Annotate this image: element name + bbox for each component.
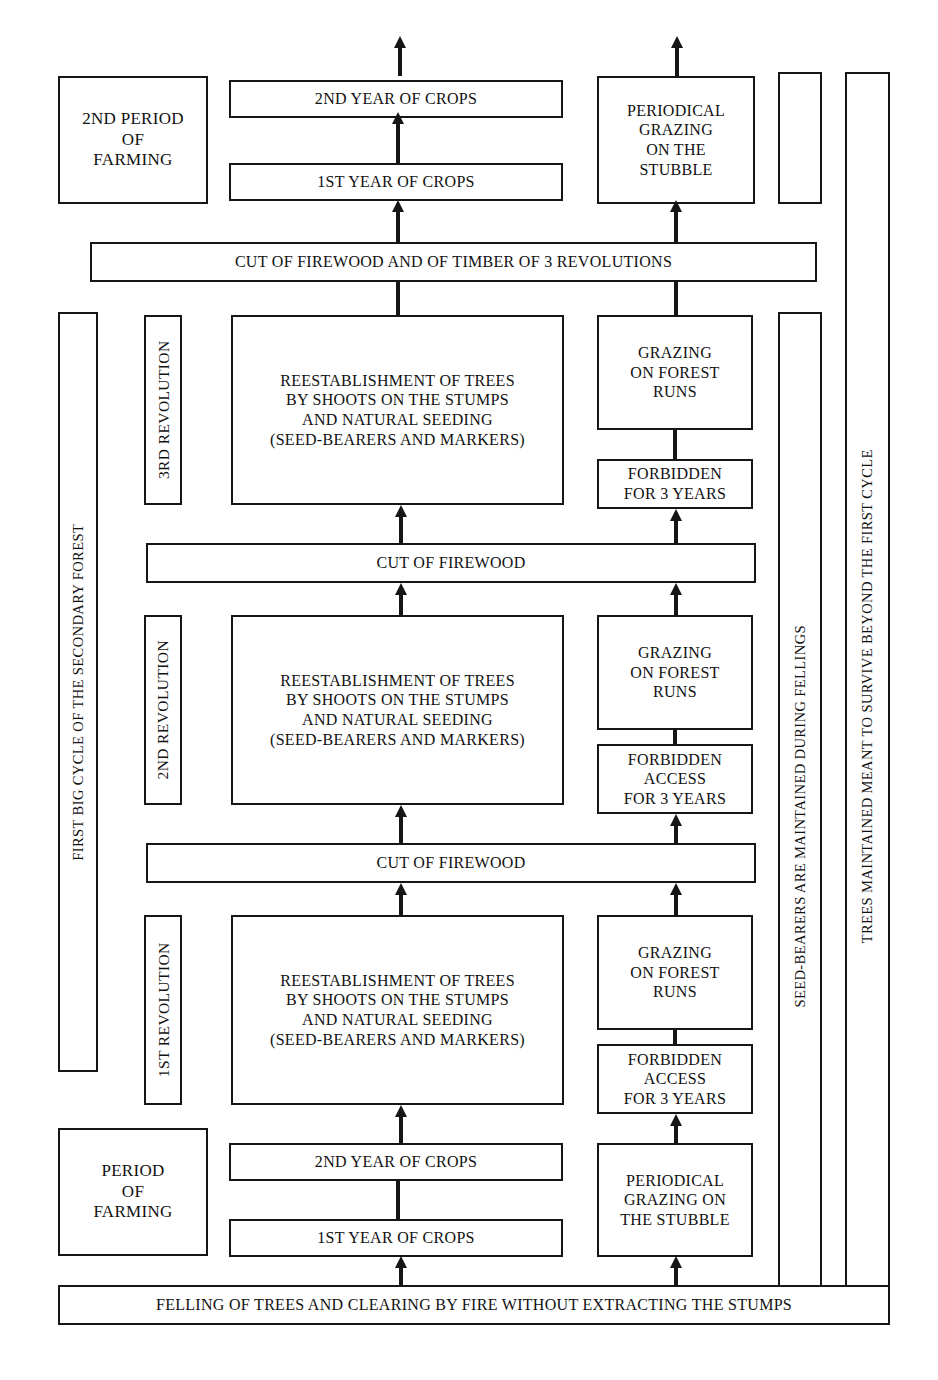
reestablishment-box-3rd: REESTABLISHMENT OF TREES BY SHOOTS ON TH… <box>231 315 564 505</box>
arrow-head-up <box>395 1256 407 1268</box>
revolution-label-text: 3RD REVOLUTION <box>155 341 171 480</box>
connector-line <box>396 282 400 315</box>
connector-line <box>673 430 677 459</box>
periodical-grazing-top-box: PERIODICAL GRAZING ON THE STUBBLE <box>597 76 755 204</box>
arrow-head-up <box>670 509 682 521</box>
second-period-of-farming-box: 2ND PERIOD OF FARMING <box>58 76 208 204</box>
arrow-head-up <box>392 200 404 212</box>
grazing-forest-runs-box-1st: GRAZING ON FOREST RUNS <box>597 915 753 1030</box>
crops-1st-year-bottom-box: 1ST YEAR OF CROPS <box>229 1219 563 1257</box>
arrow-head-up <box>395 1105 407 1117</box>
arrow-head-up <box>395 583 407 595</box>
connector-line <box>398 46 402 76</box>
arrow-head-up <box>670 883 682 895</box>
revolution-label-1st: 1ST REVOLUTION <box>144 915 182 1105</box>
arrow-head-up <box>670 583 682 595</box>
connector-line <box>673 730 677 744</box>
trees-maintained-column: TREES MAINTAINED MEANT TO SURVIVE BEYOND… <box>845 72 890 1320</box>
period-of-farming-box: PERIOD OF FARMING <box>58 1128 208 1256</box>
arrow-head-up <box>670 200 682 212</box>
connector-line <box>396 1181 400 1219</box>
arrow-head-up <box>670 1114 682 1126</box>
forbidden-box-3rd: FORBIDDEN FOR 3 YEARS <box>597 459 753 509</box>
connector-line <box>675 46 679 76</box>
forbidden-box-1st: FORBIDDEN ACCESS FOR 3 YEARS <box>597 1044 753 1114</box>
revolution-label-3rd: 3RD REVOLUTION <box>144 315 182 505</box>
reestablishment-box-1st: REESTABLISHMENT OF TREES BY SHOOTS ON TH… <box>231 915 564 1105</box>
cut-firewood-banner-lower: CUT OF FIREWOOD <box>146 843 756 883</box>
seed-bearers-label: SEED-BEARERS ARE MAINTAINED DURING FELLI… <box>793 625 808 1008</box>
arrow-head-up <box>670 1256 682 1268</box>
diagram-canvas: 2ND PERIOD OF FARMING 2ND YEAR OF CROPS … <box>0 0 938 1380</box>
connector-line <box>673 1030 677 1044</box>
seed-bearers-column-stub <box>778 72 822 204</box>
felling-banner: FELLING OF TREES AND CLEARING BY FIRE WI… <box>58 1285 890 1325</box>
arrow-head-up <box>670 814 682 826</box>
connector-line <box>674 282 678 315</box>
arrow-head-up <box>392 112 404 124</box>
periodical-grazing-bottom-box: PERIODICAL GRAZING ON THE STUBBLE <box>597 1143 753 1257</box>
crops-2nd-year-bottom-box: 2ND YEAR OF CROPS <box>229 1143 563 1181</box>
connector-line <box>396 118 400 163</box>
arrow-head-up <box>671 36 683 48</box>
cut-firewood-banner-upper: CUT OF FIREWOOD <box>146 543 756 583</box>
arrow-head-up <box>395 883 407 895</box>
trees-maintained-label: TREES MAINTAINED MEANT TO SURVIVE BEYOND… <box>860 449 875 943</box>
grazing-forest-runs-box-2nd: GRAZING ON FOREST RUNS <box>597 615 753 730</box>
reestablishment-box-2nd: REESTABLISHMENT OF TREES BY SHOOTS ON TH… <box>231 615 564 805</box>
arrow-head-up <box>394 36 406 48</box>
revolution-label-text: 1ST REVOLUTION <box>155 943 171 1078</box>
first-big-cycle-column: FIRST BIG CYCLE OF THE SECONDARY FOREST <box>58 312 98 1072</box>
seed-bearers-column: SEED-BEARERS ARE MAINTAINED DURING FELLI… <box>778 312 822 1320</box>
forbidden-box-2nd: FORBIDDEN ACCESS FOR 3 YEARS <box>597 744 753 814</box>
arrow-head-up <box>395 805 407 817</box>
crops-1st-year-top-box: 1ST YEAR OF CROPS <box>229 163 563 201</box>
revolution-label-text: 2ND REVOLUTION <box>155 640 171 779</box>
first-big-cycle-label: FIRST BIG CYCLE OF THE SECONDARY FOREST <box>71 524 86 861</box>
revolution-label-2nd: 2ND REVOLUTION <box>144 615 182 805</box>
cut-firewood-timber-banner: CUT OF FIREWOOD AND OF TIMBER OF 3 REVOL… <box>90 242 817 282</box>
grazing-forest-runs-box-3rd: GRAZING ON FOREST RUNS <box>597 315 753 430</box>
arrow-head-up <box>395 505 407 517</box>
